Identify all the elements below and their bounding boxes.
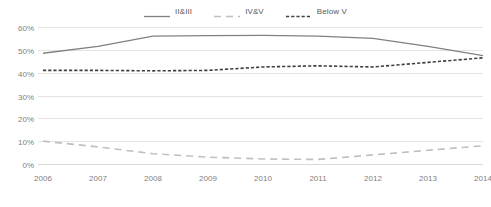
- legend-swatch-light-dashed-icon: [214, 7, 240, 16]
- legend-item-ii-iii[interactable]: II&III: [144, 7, 192, 16]
- legend-label-below-v: Below V: [317, 7, 347, 16]
- series-line-ii-iii: [43, 35, 483, 55]
- x-axis-tick-label: 2008: [144, 174, 162, 183]
- y-axis-tick-label: 50%: [18, 47, 34, 56]
- x-axis-tick-label: 2011: [309, 174, 327, 183]
- x-axis-tick-label: 2014: [474, 174, 491, 183]
- x-axis-tick-label: 2007: [89, 174, 107, 183]
- y-axis-tick-label: 30%: [18, 93, 34, 102]
- y-axis-tick-label: 20%: [18, 115, 34, 124]
- chart-plot-area: 0%10%20%30%40%50%60% 2006200720082009201…: [0, 20, 491, 190]
- chart-y-axis: 0%10%20%30%40%50%60%: [18, 24, 34, 170]
- y-axis-tick-label: 60%: [18, 24, 34, 33]
- legend-swatch-dark-dashed-icon: [286, 7, 312, 16]
- chart-series-layer: [43, 35, 483, 159]
- legend-item-iv-v[interactable]: IV&V: [214, 7, 264, 16]
- chart-gridlines: [38, 28, 483, 165]
- line-chart: II&III IV&V Below V 0%10%20%30%40%50%60%: [0, 0, 491, 207]
- y-axis-tick-label: 10%: [18, 138, 34, 147]
- legend-label-ii-iii: II&III: [175, 7, 192, 16]
- chart-x-axis: 200620072008200920102011201220132014: [34, 174, 491, 183]
- x-axis-tick-label: 2012: [364, 174, 382, 183]
- series-line-below-v: [43, 58, 483, 71]
- y-axis-tick-label: 0%: [22, 161, 34, 170]
- y-axis-tick-label: 40%: [18, 70, 34, 79]
- legend-swatch-solid-icon: [144, 7, 170, 16]
- x-axis-tick-label: 2006: [34, 174, 52, 183]
- series-line-iv-v: [43, 141, 483, 159]
- x-axis-tick-label: 2010: [254, 174, 272, 183]
- legend-label-iv-v: IV&V: [245, 7, 264, 16]
- legend-item-below-v[interactable]: Below V: [286, 7, 347, 16]
- x-axis-tick-label: 2013: [419, 174, 437, 183]
- chart-legend: II&III IV&V Below V: [0, 2, 491, 20]
- x-axis-tick-label: 2009: [199, 174, 217, 183]
